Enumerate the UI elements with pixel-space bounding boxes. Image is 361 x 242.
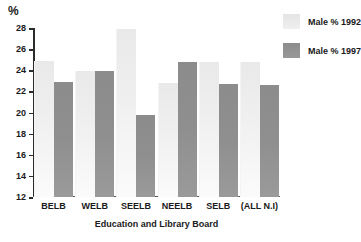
bar-neelb-1992 bbox=[158, 83, 178, 197]
x-category-label: SEELB bbox=[121, 201, 151, 211]
bar-group bbox=[239, 28, 280, 197]
x-axis-title: Education and Library Board bbox=[33, 219, 280, 229]
y-tick-label: 12 bbox=[16, 192, 26, 202]
y-tick-label: 18 bbox=[16, 129, 26, 139]
bar-selb-1997 bbox=[219, 84, 238, 197]
x-category-label: NEELB bbox=[162, 201, 193, 211]
y-tick-label: 16 bbox=[16, 150, 26, 160]
bar-neelb-1997 bbox=[178, 62, 197, 197]
y-tick-label: 24 bbox=[16, 65, 26, 75]
y-tick-mark bbox=[29, 197, 33, 199]
chart-legend: Male % 1992 Male % 1997 bbox=[283, 14, 361, 72]
bar-selb-1992 bbox=[199, 62, 219, 197]
x-category-label: BELB bbox=[41, 201, 66, 211]
bar-group bbox=[74, 28, 115, 197]
plot-area: 121416182022242628 bbox=[33, 28, 280, 197]
y-tick-label: 28 bbox=[16, 23, 26, 33]
x-category-label: WELB bbox=[82, 201, 109, 211]
y-tick-label: 26 bbox=[16, 44, 26, 54]
legend-item-1992: Male % 1992 bbox=[283, 14, 361, 29]
bars-layer bbox=[33, 28, 280, 197]
y-axis-unit-label: % bbox=[8, 4, 18, 18]
legend-label-1997: Male % 1997 bbox=[308, 46, 361, 56]
bar-welb-1997 bbox=[95, 71, 114, 197]
bar-group bbox=[115, 28, 156, 197]
bar-belb-1997 bbox=[54, 82, 73, 197]
bar-group bbox=[33, 28, 74, 197]
bar-group bbox=[157, 28, 198, 197]
bar-belb-1992 bbox=[34, 61, 54, 197]
legend-item-1997: Male % 1997 bbox=[283, 43, 361, 58]
y-tick-label: 22 bbox=[16, 86, 26, 96]
bar-allni-1992 bbox=[240, 62, 260, 197]
legend-label-1992: Male % 1992 bbox=[308, 17, 361, 27]
bar-seelb-1992 bbox=[116, 29, 136, 197]
x-category-label: SELB bbox=[206, 201, 230, 211]
bar-seelb-1997 bbox=[136, 115, 155, 197]
y-tick-label: 20 bbox=[16, 108, 26, 118]
bar-welb-1992 bbox=[75, 71, 95, 197]
legend-swatch-1992 bbox=[283, 14, 300, 29]
x-category-label: (ALL N.I) bbox=[241, 201, 278, 211]
y-tick-label: 14 bbox=[16, 171, 26, 181]
x-axis-category-labels: BELBWELBSEELBNEELBSELB(ALL N.I) bbox=[33, 201, 280, 215]
legend-swatch-1997 bbox=[283, 43, 300, 58]
bar-allni-1997 bbox=[260, 85, 279, 197]
bar-group bbox=[198, 28, 239, 197]
